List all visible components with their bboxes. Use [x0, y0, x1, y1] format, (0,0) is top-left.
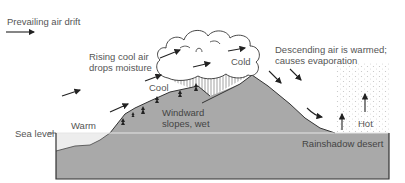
descending-arrow	[269, 71, 281, 83]
label-cool: Cool	[149, 82, 169, 93]
label-drops-moisture: drops moisture	[89, 62, 152, 73]
label-descending-air: Descending air is warmed;	[275, 44, 387, 55]
label-cold: Cold	[231, 56, 251, 67]
label-warm: Warm	[71, 120, 96, 131]
label-hot: Hot	[358, 118, 373, 129]
air-arrow	[110, 104, 128, 112]
label-sea-level: Sea level	[15, 128, 54, 139]
label-slopes-wet: slopes, wet	[162, 118, 210, 129]
label-windward: Windward	[162, 107, 204, 118]
air-arrow	[62, 90, 80, 96]
label-causes-evaporation: causes evaporation	[275, 55, 357, 66]
descending-arrow	[307, 108, 322, 117]
rain-shadow-diagram	[0, 0, 405, 183]
descending-arrow	[290, 69, 301, 80]
label-rainshadow-desert: Rainshadow desert	[302, 138, 383, 149]
label-rising-cool-air: Rising cool air	[89, 51, 149, 62]
air-arrow	[145, 75, 161, 81]
label-prevailing-air-drift: Prevailing air drift	[7, 16, 80, 27]
